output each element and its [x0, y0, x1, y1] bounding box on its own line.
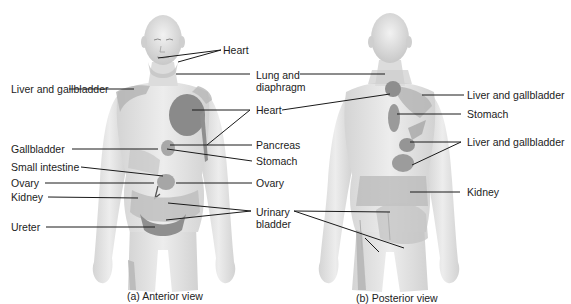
referred-pain-diagram: Heart Lung and diaphragm Liver and gallb… — [0, 0, 571, 304]
figures-illustration — [0, 0, 571, 304]
label-heart-chest: Heart — [256, 104, 282, 116]
label-ovary-left: Ovary — [11, 177, 39, 189]
label-pancreas: Pancreas — [256, 139, 300, 151]
label-urinary-line1: Urinary — [256, 206, 291, 218]
caption-anterior-view: (a) Anterior view — [127, 290, 203, 302]
label-kidney-posterior: Kidney — [467, 186, 499, 198]
label-liver-gallbladder-anterior: Liver and gallbladder — [11, 83, 108, 95]
heart-zone — [169, 94, 205, 136]
label-stomach-anterior: Stomach — [256, 155, 297, 167]
label-gallbladder: Gallbladder — [11, 143, 65, 155]
label-urinary-line2: bladder — [256, 218, 291, 230]
label-liver-gallbladder-posterior-lower: Liver and gallbladder — [467, 136, 564, 148]
label-lung-line2: diaphragm — [256, 81, 306, 93]
label-small-intestine: Small intestine — [11, 161, 79, 173]
anterior-body — [93, 15, 236, 292]
label-heart-face: Heart — [223, 44, 249, 56]
label-urinary-bladder: Urinary bladder — [256, 206, 291, 230]
label-stomach-posterior: Stomach — [467, 108, 508, 120]
label-liver-gallbladder-posterior-upper: Liver and gallbladder — [467, 89, 564, 101]
label-ureter: Ureter — [11, 221, 40, 233]
label-lung-diaphragm-anterior: Lung and diaphragm — [256, 69, 306, 93]
caption-posterior-view: (b) Posterior view — [356, 292, 438, 304]
label-kidney-anterior: Kidney — [11, 191, 43, 203]
label-lung-line1: Lung and — [256, 69, 306, 81]
label-ovary-right: Ovary — [256, 177, 284, 189]
